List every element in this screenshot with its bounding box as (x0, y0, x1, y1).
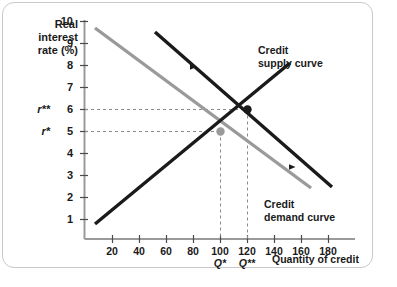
y-tick-label-2: 2 (51, 191, 73, 203)
y-tick-label-4: 4 (51, 147, 73, 159)
x-tick-label-80: 80 (178, 245, 208, 257)
demand-curve-label: Credit demand curve (264, 198, 335, 224)
y-tick-label-9: 9 (51, 37, 73, 49)
x-tick-label-100: 100 (205, 245, 235, 257)
q-double-star-label: Q** (232, 257, 262, 269)
equilibrium-point-new (243, 105, 251, 113)
credit-supply-curve (95, 63, 290, 224)
y-tick-label-6: 6 (51, 103, 73, 115)
supply-curve-label-line-1: Credit (258, 44, 323, 57)
x-tick-label-40: 40 (124, 245, 154, 257)
x-tick-label-20: 20 (97, 245, 127, 257)
r-double-star-label: r** (26, 103, 50, 115)
x-tick-label-60: 60 (151, 245, 181, 257)
y-tick-label-7: 7 (51, 81, 73, 93)
x-tick-label-120: 120 (232, 245, 262, 257)
q-star-label: Q* (205, 257, 235, 269)
supply-curve-label: Credit supply curve (258, 44, 323, 70)
demand-curve-label-line-1: Credit (264, 198, 335, 211)
x-axis-title: Quantity of credit (272, 253, 359, 265)
equilibrium-point-initial (216, 127, 224, 135)
r-star-label: r* (26, 125, 50, 137)
y-tick-label-10: 10 (51, 15, 73, 27)
y-tick-label-8: 8 (51, 59, 73, 71)
y-tick-label-3: 3 (51, 169, 73, 181)
y-tick-label-5: 5 (51, 125, 73, 137)
supply-curve-label-line-2: supply curve (258, 57, 323, 70)
demand-curve-label-line-2: demand curve (264, 211, 335, 224)
y-tick-label-1: 1 (51, 213, 73, 225)
